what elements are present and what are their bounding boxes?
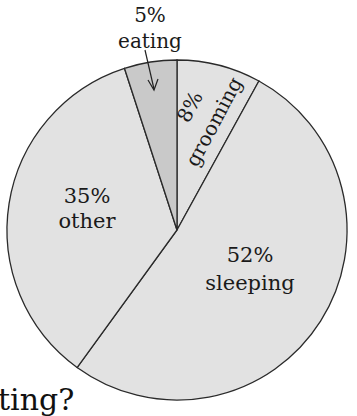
sleeping-name-label: sleeping — [205, 271, 294, 295]
other-name-label: other — [58, 209, 116, 233]
sleeping-percent-label: 52% — [227, 243, 274, 267]
question-text-fragment: ting? — [0, 382, 74, 416]
other-percent-label: 35% — [64, 184, 111, 208]
eating-name-label: eating — [118, 29, 182, 53]
eating-percent-label: 5% — [134, 3, 166, 27]
pie-chart: 5% eating 8% grooming 35% other 52% slee… — [0, 0, 357, 416]
